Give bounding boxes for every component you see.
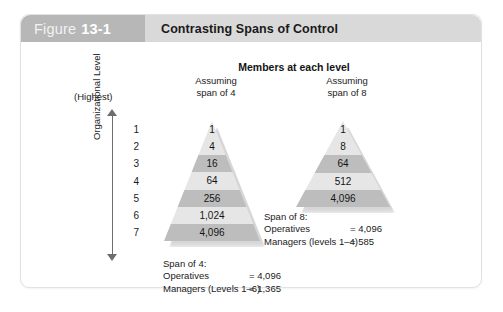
caption-operatives-row: Operatives = 4,096 (264, 223, 382, 235)
organizational-level-label: Organizational Level (91, 53, 102, 140)
caption-managers-key: Managers (Levels 1–6) (163, 283, 249, 295)
level-number: 5 (125, 190, 139, 207)
pyramid-band-value: 4,096 (330, 193, 355, 204)
pyramid-body: 1416642561,0244,096 (164, 121, 260, 241)
level-number: 3 (125, 155, 139, 172)
caption-operatives-value: = 4,096 (350, 223, 382, 235)
arrow-shaft (112, 114, 113, 256)
figure-screenshot: Figure 13-1 Contrasting Spans of Control… (0, 0, 503, 312)
pyramid-body: 18645124,096 (296, 121, 390, 207)
assuming-span-8-line1: Assuming (304, 75, 390, 87)
caption-heading: Span of 4: (163, 258, 281, 270)
pyramid-band: 1,024 (164, 207, 260, 224)
level-number: 7 (125, 224, 139, 241)
pyramid-band: 4 (164, 138, 260, 155)
pyramid-band-value: 8 (340, 141, 346, 152)
caption-operatives-row: Operatives = 4,096 (163, 270, 281, 282)
span-of-4-caption: Span of 4: Operatives = 4,096 Managers (… (163, 258, 281, 295)
caption-managers-value: = 1,365 (249, 283, 281, 295)
caption-managers-row: Managers (levels 1–4) = 585 (264, 236, 382, 248)
caption-managers-value: = 585 (350, 236, 374, 248)
level-number: 4 (125, 173, 139, 190)
pyramid-band-value: 4,096 (199, 227, 224, 238)
assuming-span-8-line2: span of 8 (304, 87, 390, 99)
arrow-head-down-icon (107, 254, 117, 261)
figure-title: Contrasting Spans of Control (161, 15, 338, 42)
pyramid-span-of-4: 1416642561,0244,096 (164, 121, 260, 241)
pyramid-band: 4,096 (296, 190, 390, 207)
pyramid-band-value: 64 (206, 175, 217, 186)
assuming-span-4-line1: Assuming (173, 75, 259, 87)
pyramid-band-value: 1 (340, 124, 346, 135)
assuming-span-4-line2: span of 4 (173, 87, 259, 99)
pyramid-band-value: 1,024 (199, 210, 224, 221)
members-heading: Members at each level (184, 61, 404, 73)
pyramid-band: 4,096 (164, 224, 260, 241)
figure-number: 13-1 (81, 21, 111, 37)
level-number: 1 (125, 121, 139, 138)
assuming-span-8-heading: Assuming span of 8 (304, 75, 390, 98)
pyramid-band-value: 1 (209, 124, 215, 135)
span-of-8-caption: Span of 8: Operatives = 4,096 Managers (… (264, 211, 382, 248)
figure-card: Figure 13-1 Contrasting Spans of Control… (20, 14, 482, 288)
caption-operatives-value: = 4,096 (249, 270, 281, 282)
pyramid-band-value: 16 (206, 158, 217, 169)
caption-heading: Span of 8: (264, 211, 382, 223)
pyramid-band-value: 256 (204, 193, 221, 204)
pyramid-band: 64 (296, 155, 390, 172)
caption-managers-row: Managers (Levels 1–6) = 1,365 (163, 283, 281, 295)
pyramid-band: 1 (164, 121, 260, 138)
figure-number-tab: Figure 13-1 (21, 15, 145, 42)
caption-managers-key: Managers (levels 1–4) (264, 236, 350, 248)
pyramid-band: 8 (296, 138, 390, 155)
pyramid-band-value: 512 (335, 176, 352, 187)
pyramid-band: 1 (296, 121, 390, 138)
level-number: 6 (125, 207, 139, 224)
organizational-level-arrow-icon (107, 109, 118, 261)
pyramid-band: 64 (164, 172, 260, 189)
level-number-list: 1234567 (125, 121, 139, 241)
caption-operatives-key: Operatives (163, 270, 249, 282)
pyramid-band-value: 64 (337, 158, 348, 169)
figure-label-word: Figure (34, 21, 76, 37)
pyramid-band-value: 4 (209, 141, 215, 152)
assuming-span-4-heading: Assuming span of 4 (173, 75, 259, 98)
level-number: 2 (125, 138, 139, 155)
caption-operatives-key: Operatives (264, 223, 350, 235)
pyramid-span-of-8: 18645124,096 (296, 121, 390, 207)
pyramid-band: 16 (164, 155, 260, 172)
